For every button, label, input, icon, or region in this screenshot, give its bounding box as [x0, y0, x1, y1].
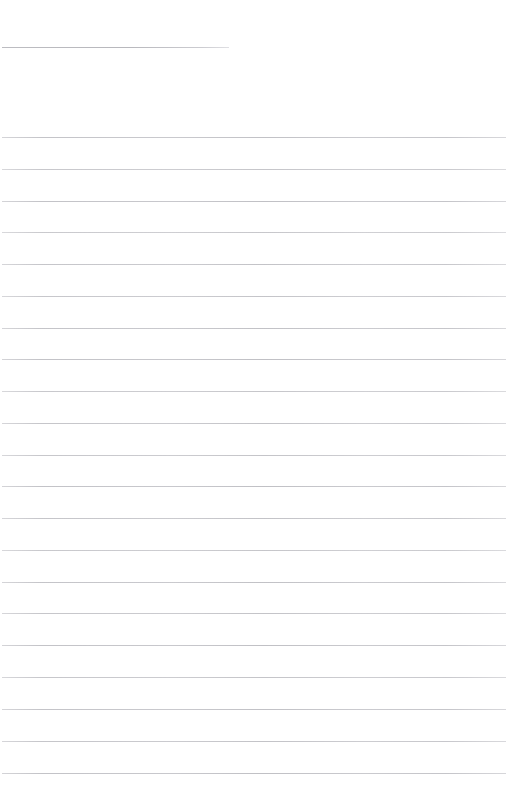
ruled-line — [2, 645, 506, 646]
ruled-line — [2, 709, 506, 710]
ruled-line — [2, 423, 506, 424]
ruled-line — [2, 201, 506, 202]
ruled-line — [2, 773, 506, 774]
ruled-line — [2, 582, 506, 583]
ruled-line — [2, 328, 506, 329]
ruled-line — [2, 455, 506, 456]
ruled-line — [2, 359, 506, 360]
ruled-line — [2, 677, 506, 678]
ruled-line — [2, 613, 506, 614]
ruled-line — [2, 264, 506, 265]
ruled-line — [2, 518, 506, 519]
scanned-page — [0, 0, 511, 805]
ruled-line — [2, 741, 506, 742]
writing-area[interactable] — [0, 0, 511, 805]
ruled-line — [2, 550, 506, 551]
ruled-line — [2, 169, 506, 170]
ruled-line — [2, 232, 506, 233]
ruled-line — [2, 296, 506, 297]
ruled-line — [2, 137, 506, 138]
ruled-line — [2, 486, 506, 487]
ruled-line — [2, 391, 506, 392]
